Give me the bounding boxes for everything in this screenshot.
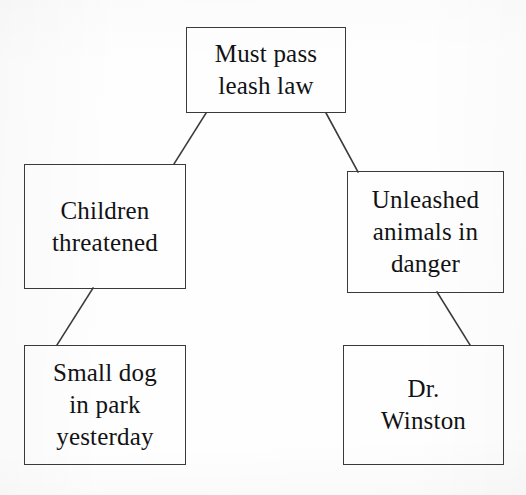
node-box-evidence-small-dog[interactable]: Small dog in park yesterday — [24, 345, 186, 465]
connector-claim-to-reason-left — [174, 113, 206, 164]
node-label-evidence-small-dog: Small dog in park yesterday — [53, 357, 157, 453]
node-label-evidence-dr-winston: Dr. Winston — [381, 373, 466, 437]
node-label-reason-children-threatened: Children threatened — [52, 195, 158, 259]
node-box-main-claim[interactable]: Must pass leash law — [186, 27, 346, 113]
node-box-reason-unleashed-animals[interactable]: Unleashed animals in danger — [347, 171, 504, 293]
connector-reason-right-to-evidence-right — [437, 292, 470, 345]
connector-claim-to-reason-right — [326, 113, 358, 172]
node-box-reason-children-threatened[interactable]: Children threatened — [24, 164, 186, 289]
diagram-canvas: Must pass leash law Children threatened … — [0, 0, 526, 495]
node-box-evidence-dr-winston[interactable]: Dr. Winston — [343, 345, 504, 465]
connector-reason-left-to-evidence-left — [57, 288, 93, 345]
node-label-main-claim: Must pass leash law — [215, 38, 318, 102]
node-label-reason-unleashed-animals: Unleashed animals in danger — [372, 184, 479, 280]
